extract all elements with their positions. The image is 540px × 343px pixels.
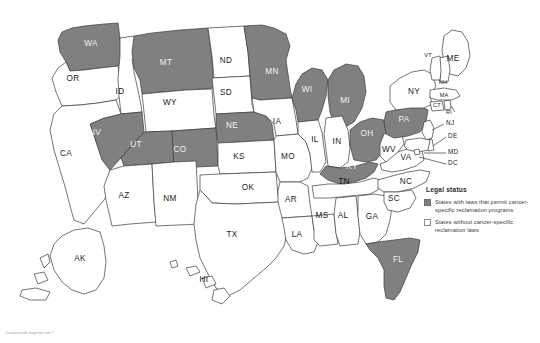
state-label-KY: KY: [346, 162, 358, 171]
state-label-IA: IA: [273, 117, 282, 126]
state-label-MS: MS: [316, 211, 329, 220]
state-label-NM: NM: [163, 194, 176, 203]
state-label-FL: FL: [393, 255, 403, 264]
state-label-SD: SD: [220, 88, 232, 97]
state-label-RI: RI: [446, 109, 452, 115]
legend-label-shaded: States with laws that permit cancer-spec…: [435, 198, 536, 214]
state-label-WV: WV: [382, 145, 396, 154]
state-WY[interactable]: [142, 89, 216, 132]
state-label-PA: PA: [399, 115, 410, 124]
state-label-TN: TN: [338, 177, 350, 186]
state-label-SC: SC: [388, 194, 400, 203]
legend-label-unshaded: States without cancer-specific reclamati…: [435, 218, 536, 234]
state-label-CT: CT: [433, 102, 441, 108]
state-ND[interactable]: [208, 26, 250, 78]
state-FL[interactable]: [366, 238, 420, 300]
state-AL[interactable]: [334, 196, 360, 246]
state-AK[interactable]: [20, 228, 106, 300]
state-label-MD: MD: [448, 148, 459, 155]
state-label-AZ: AZ: [118, 191, 129, 200]
state-label-ID: ID: [116, 87, 125, 96]
state-label-MT: MT: [160, 58, 172, 67]
state-label-VA: VA: [401, 153, 412, 162]
state-NE[interactable]: [216, 112, 274, 143]
state-label-CO: CO: [174, 145, 187, 154]
state-label-OK: OK: [242, 183, 255, 192]
state-label-OR: OR: [67, 74, 80, 83]
state-label-WY: WY: [163, 98, 177, 107]
us-map-svg: WAORIDMTNDSDWYNVUTCOCAAZNMNEKSOKTXMNIAMO…: [0, 0, 540, 343]
state-label-IN: IN: [333, 137, 342, 146]
state-label-NY: NY: [408, 87, 420, 96]
state-label-IL: IL: [311, 135, 319, 144]
state-label-MN: MN: [265, 67, 278, 76]
legend-swatch-shaded: [424, 199, 431, 206]
state-label-OH: OH: [361, 129, 374, 138]
state-MN[interactable]: [244, 25, 292, 100]
state-label-TX: TX: [226, 230, 237, 239]
state-label-LA: LA: [292, 230, 303, 239]
state-label-DC: DC: [448, 159, 458, 166]
state-OK[interactable]: [200, 172, 280, 204]
state-DC[interactable]: [414, 149, 420, 155]
state-label-AR: AR: [285, 195, 297, 204]
state-label-MA: MA: [440, 92, 449, 98]
legend-item-shaded[interactable]: States with laws that permit cancer-spec…: [424, 198, 536, 214]
state-label-NH: NH: [439, 79, 447, 85]
state-label-VT: VT: [424, 52, 432, 58]
us-map: WAORIDMTNDSDWYNVUTCOCAAZNMNEKSOKTXMNIAMO…: [0, 0, 540, 343]
state-label-NE: NE: [226, 121, 238, 130]
state-label-HI: HI: [200, 275, 209, 284]
state-label-CA: CA: [60, 149, 72, 158]
state-MT[interactable]: [132, 28, 214, 94]
state-label-ME: ME: [447, 54, 460, 63]
state-label-AL: AL: [338, 211, 349, 220]
state-label-MO: MO: [281, 152, 295, 161]
state-label-MI: MI: [340, 96, 350, 105]
state-label-NV: NV: [89, 128, 101, 137]
legend-swatch-unshaded: [424, 219, 431, 226]
leader-line-de: [433, 137, 446, 146]
state-AZ[interactable]: [104, 164, 156, 226]
state-label-ND: ND: [220, 56, 232, 65]
state-label-AK: AK: [74, 254, 86, 263]
state-label-KS: KS: [233, 152, 245, 161]
state-SD[interactable]: [212, 76, 254, 114]
legend-title: Legal status: [426, 186, 536, 193]
legend-item-unshaded[interactable]: States without cancer-specific reclamati…: [424, 218, 536, 234]
state-label-WI: WI: [302, 85, 313, 94]
state-KS[interactable]: [218, 140, 276, 174]
state-label-DE: DE: [448, 132, 457, 139]
leader-label-group: NJDEMDDC: [446, 119, 459, 166]
state-label-WA: WA: [84, 39, 98, 48]
map-credit: Created with mapchart.net ©: [6, 331, 55, 335]
map-legend: Legal status States with laws that permi…: [424, 186, 536, 238]
state-label-NJ: NJ: [446, 119, 454, 126]
state-WI[interactable]: [292, 68, 328, 122]
state-label-GA: GA: [366, 212, 379, 221]
state-label-NC: NC: [400, 177, 412, 186]
state-label-UT: UT: [130, 140, 142, 149]
